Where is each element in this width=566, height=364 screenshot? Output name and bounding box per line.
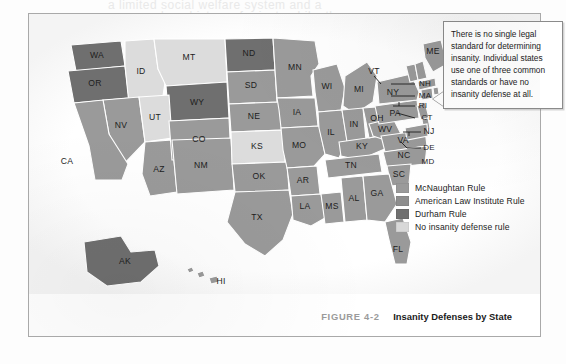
state-label-nm: NM [194, 160, 208, 170]
state-label-nj: NJ [424, 126, 435, 136]
state-label-ny: NY [387, 87, 399, 97]
state-label-wv: WV [378, 124, 392, 134]
state-label-az: AZ [153, 164, 164, 174]
state-label-or: OR [88, 78, 101, 88]
legend-label-ali: American Law Institute Rule [415, 196, 525, 206]
state-label-ar: AR [297, 175, 309, 185]
state-label-wi: WI [322, 81, 333, 91]
legend-item-none: No insanity defense rule [396, 221, 544, 233]
legend-swatch-durham [396, 209, 409, 219]
state-label-ia: IA [293, 107, 302, 117]
legend-label-durham: Durham Rule [415, 209, 467, 219]
legend-label-none: No insanity defense rule [415, 222, 510, 232]
state-label-mn: MN [288, 62, 302, 72]
figure-title: Insanity Defenses by State [393, 311, 512, 322]
state-label-id: ID [137, 66, 146, 76]
state-label-va: VA [397, 135, 408, 145]
state-label-il: IL [327, 127, 335, 137]
state-label-sc: SC [393, 169, 405, 179]
state-label-in: IN [350, 119, 359, 129]
state-label-ca: CA [61, 156, 73, 166]
callout-text: There is no single legal standard for de… [444, 22, 562, 101]
state-label-ok: OK [253, 171, 266, 181]
figure-page: a limited social welfare system and a a … [0, 0, 566, 364]
legend-swatch-none [396, 222, 409, 232]
state-label-mi: MI [354, 84, 364, 94]
state-label-fl: FL [393, 244, 403, 254]
legend-label-mcnaughtan: McNaughtan Rule [415, 183, 485, 193]
state-label-nv: NV [115, 120, 127, 130]
state-label-ut: UT [149, 112, 161, 122]
state-label-ga: GA [371, 188, 384, 198]
state-label-wa: WA [90, 50, 104, 60]
state-label-de: DE [423, 143, 435, 152]
state-label-ma: MA [419, 91, 432, 100]
legend-swatch-mcnaughtan [396, 183, 409, 193]
map-legend: McNaughtan Rule American Law Institute R… [396, 182, 544, 234]
state-label-md: MD [422, 157, 435, 166]
state-label-tn: TN [345, 160, 357, 170]
state-label-al: AL [349, 193, 360, 203]
state-label-ct: CT [421, 113, 432, 122]
state-label-ms: MS [325, 201, 338, 211]
state-label-vt: VT [368, 66, 380, 76]
state-label-ri: RI [419, 101, 427, 110]
state-label-la: LA [300, 201, 311, 211]
state-label-hi: HI [217, 276, 226, 286]
state-label-ky: KY [356, 141, 368, 151]
legend-item-mcnaughtan: McNaughtan Rule [396, 182, 544, 194]
state-label-tx: TX [251, 212, 262, 222]
state-label-me: ME [426, 46, 439, 56]
legend-swatch-ali [396, 196, 409, 206]
state-label-oh: OH [370, 113, 383, 123]
state-label-ak: AK [119, 256, 131, 266]
callout-box: There is no single legal standard for de… [443, 21, 563, 109]
state-label-nc: NC [398, 150, 411, 160]
figure-frame: WAORIDMTWYNVUTCAAZCONMNDSDNEKSOKTXMNIAMO… [28, 13, 541, 337]
state-label-sd: SD [245, 80, 257, 90]
state-label-nd: ND [243, 48, 256, 58]
state-label-wy: WY [190, 97, 204, 107]
figure-number: FIGURE 4-2 [321, 311, 380, 322]
state-label-mo: MO [292, 140, 306, 150]
state-label-nh: NH [419, 79, 431, 88]
state-label-co: CO [192, 134, 205, 144]
state-label-ne: NE [248, 111, 260, 121]
legend-item-durham: Durham Rule [396, 208, 544, 220]
state-label-pa: PA [389, 108, 400, 118]
legend-item-ali: American Law Institute Rule [396, 195, 544, 207]
state-label-mt: MT [183, 52, 196, 62]
state-label-ks: KS [251, 141, 263, 151]
figure-caption: FIGURE 4-2 Insanity Defenses by State [29, 306, 540, 324]
state-mt [154, 39, 227, 86]
